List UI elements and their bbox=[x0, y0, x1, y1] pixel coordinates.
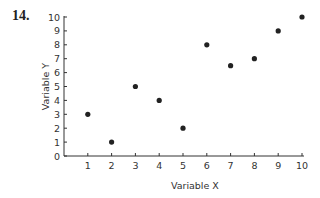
y-tick-label: 2 bbox=[54, 123, 60, 134]
x-tick-label: 4 bbox=[156, 160, 162, 171]
data-point bbox=[276, 28, 281, 33]
data-point bbox=[204, 42, 209, 47]
x-tick-label: 9 bbox=[275, 160, 281, 171]
x-tick-label: 1 bbox=[85, 160, 91, 171]
x-axis-label: Variable X bbox=[171, 180, 219, 191]
y-tick-label: 4 bbox=[54, 95, 60, 106]
data-point bbox=[109, 140, 114, 145]
x-tick-label: 7 bbox=[228, 160, 234, 171]
scatter-chart: 12345678910012345678910Variable XVariabl… bbox=[0, 0, 320, 198]
x-tick-label: 8 bbox=[251, 160, 257, 171]
y-tick-label: 7 bbox=[54, 53, 60, 64]
y-tick-label: 1 bbox=[54, 137, 60, 148]
data-point bbox=[228, 63, 233, 68]
y-tick-label: 8 bbox=[54, 39, 60, 50]
y-tick-label: 9 bbox=[54, 25, 60, 36]
data-point bbox=[133, 84, 138, 89]
x-tick-label: 10 bbox=[296, 160, 308, 171]
y-tick-label: 0 bbox=[54, 151, 60, 162]
data-point bbox=[85, 112, 90, 117]
y-axis-label: Variable Y bbox=[40, 63, 51, 110]
data-point bbox=[180, 126, 185, 131]
x-tick-label: 2 bbox=[109, 160, 115, 171]
x-tick-label: 5 bbox=[180, 160, 186, 171]
data-point bbox=[252, 56, 257, 61]
x-tick-label: 3 bbox=[132, 160, 138, 171]
y-tick-label: 10 bbox=[48, 12, 60, 23]
y-tick-label: 3 bbox=[54, 109, 60, 120]
y-tick-label: 5 bbox=[54, 81, 60, 92]
y-tick-label: 6 bbox=[54, 67, 60, 78]
x-tick-label: 6 bbox=[204, 160, 210, 171]
data-point bbox=[157, 98, 162, 103]
data-point bbox=[299, 14, 304, 19]
